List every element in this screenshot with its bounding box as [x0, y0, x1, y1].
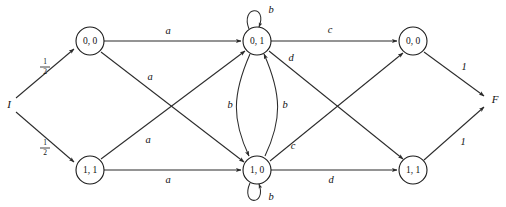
edge-top-left-to-bottom-mid [101, 52, 244, 162]
fraction-denominator: 2 [43, 148, 47, 157]
edge-label-b-up-curve: b [282, 99, 287, 110]
initial-state-label: I [6, 98, 12, 110]
node-bottom-mid[interactable]: 1, 0 [243, 156, 271, 184]
edge-label-initial-top: 1 2 [40, 57, 50, 76]
edge-label-one-bottom: 1 [460, 136, 465, 147]
edge-label-c-top: c [328, 24, 333, 35]
final-state-label: F [491, 93, 499, 105]
node-top-mid[interactable]: 0, 1 [243, 27, 271, 55]
edge-bottom-left-to-top-mid [101, 51, 245, 159]
state-diagram-svg: 0, 0 0, 1 0, 0 1, 1 1, 0 1, 1 I F 1 [0, 0, 506, 207]
node-top-right[interactable]: 0, 0 [399, 27, 427, 55]
edge-label-a-bottom: a [165, 174, 170, 185]
edge-label-d-bottom: d [328, 174, 334, 185]
fraction-numerator: 1 [43, 138, 47, 147]
edge-self-loop-bottom-mid [248, 183, 261, 200]
edge-label-a-top: a [165, 25, 170, 36]
state-diagram-canvas: 0, 0 0, 1 0, 0 1, 1 1, 0 1, 1 I F 1 [0, 0, 506, 207]
edge-top-right-to-final [424, 52, 484, 96]
node-label: 1, 1 [406, 165, 421, 175]
node-label: 0, 1 [250, 36, 265, 46]
node-label: 1, 1 [83, 165, 98, 175]
edge-self-loop-top-mid [247, 11, 261, 29]
node-bottom-left[interactable]: 1, 1 [76, 156, 104, 184]
node-label: 1, 0 [250, 165, 265, 175]
fraction-denominator: 2 [43, 67, 47, 76]
edge-label-b-down-curve: b [227, 99, 232, 110]
node-label: 0, 0 [406, 36, 421, 46]
node-label: 0, 0 [83, 36, 98, 46]
edge-label-b-self-bottom: b [268, 191, 273, 202]
edge-top-mid-to-bottom-right [269, 51, 403, 159]
edge-top-mid-to-bottom-mid [236, 54, 250, 156]
fraction-numerator: 1 [43, 57, 47, 66]
edge-bottom-mid-to-top-mid [264, 54, 278, 156]
edge-label-one-top: 1 [461, 61, 466, 72]
node-bottom-right[interactable]: 1, 1 [399, 156, 427, 184]
edge-label-a-cross-down: a [147, 71, 152, 82]
edge-label-c-diagonal: c [291, 140, 296, 151]
edge-bottom-right-to-final [424, 107, 484, 160]
edge-label-a-cross-up: a [145, 134, 150, 145]
node-top-left[interactable]: 0, 0 [76, 27, 104, 55]
edge-label-b-self-top: b [268, 4, 273, 15]
edge-label-d-diagonal: d [288, 52, 294, 63]
